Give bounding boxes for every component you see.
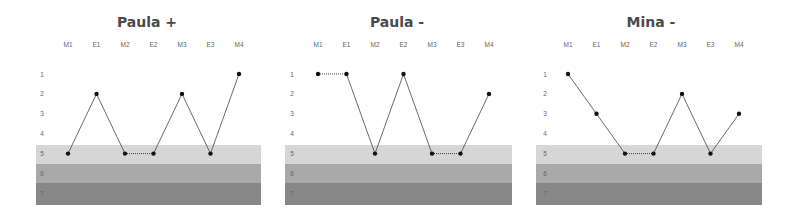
line-chart: M1E1M2E2M3E3M41234567	[0, 0, 789, 216]
y-tick-label: 6	[543, 170, 547, 177]
x-tick-label: E1	[593, 41, 601, 48]
x-tick-label: M2	[620, 41, 629, 48]
data-point	[566, 72, 570, 76]
y-tick-label: 1	[543, 71, 547, 78]
data-point	[680, 92, 684, 96]
y-tick-label: 4	[543, 130, 547, 137]
x-tick-label: E3	[707, 41, 715, 48]
line-segment	[682, 94, 711, 154]
y-tick-label: 2	[543, 90, 547, 97]
x-tick-label: E2	[650, 41, 658, 48]
data-point	[651, 151, 655, 155]
band-7	[536, 183, 762, 205]
y-tick-label: 5	[543, 150, 547, 157]
data-point	[594, 112, 598, 116]
data-point	[708, 151, 712, 155]
line-segment	[568, 74, 597, 114]
band-6	[536, 164, 762, 183]
band-5	[536, 145, 762, 164]
y-tick-label: 7	[543, 190, 547, 197]
x-tick-label: M1	[563, 41, 572, 48]
data-point	[737, 112, 741, 116]
panel-mina-minus: Mina - M1E1M2E2M3E3M41234567	[0, 0, 789, 216]
y-tick-label: 3	[543, 110, 547, 117]
x-tick-label: M3	[677, 41, 686, 48]
x-tick-label: M4	[734, 41, 743, 48]
line-segment	[654, 94, 683, 154]
data-point	[623, 151, 627, 155]
